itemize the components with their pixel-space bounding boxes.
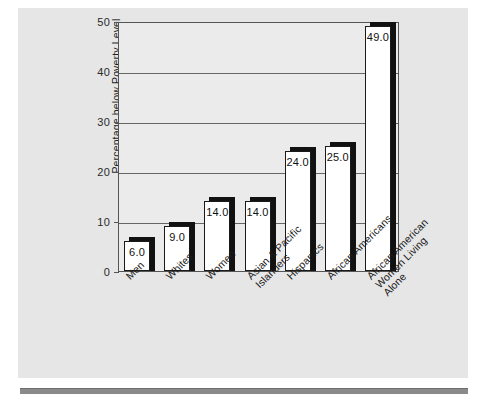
bottom-divider-rule bbox=[20, 388, 468, 394]
y-tick-label-20: 20 bbox=[97, 166, 110, 178]
bar-value-label: 9.0 bbox=[169, 231, 185, 243]
y-axis-label-wrapper: Percentage below Poverty Level bbox=[60, 20, 80, 270]
y-tick-label-0: 0 bbox=[104, 266, 110, 278]
y-tick-label-50: 50 bbox=[97, 16, 110, 28]
y-tick-label-40: 40 bbox=[97, 66, 110, 78]
y-tick-mark-0 bbox=[114, 272, 119, 273]
bar-value-label: 14.0 bbox=[246, 206, 268, 218]
figure-container: Percentage below Poverty Level 010203040… bbox=[0, 0, 486, 402]
bar-value-label: 25.0 bbox=[327, 151, 349, 163]
y-tick-label-10: 10 bbox=[97, 216, 110, 228]
bar-group[interactable]: 25.0 bbox=[325, 23, 351, 271]
bar-group[interactable]: 9.0 bbox=[164, 23, 190, 271]
bar-group[interactable]: 14.0 bbox=[204, 23, 230, 271]
y-axis-tick-labels: 01020304050 bbox=[88, 22, 114, 272]
bar-value-label: 24.0 bbox=[287, 156, 309, 168]
x-axis-tick-labels: MenWhitesWomenAsian & Pacific IslandersH… bbox=[118, 274, 399, 374]
bar-value-label: 6.0 bbox=[129, 246, 145, 258]
y-tick-label-30: 30 bbox=[97, 116, 110, 128]
bar-group[interactable]: 6.0 bbox=[124, 23, 150, 271]
bar-value-label: 14.0 bbox=[206, 206, 228, 218]
plot-area: 6.09.014.014.024.025.049.0 bbox=[118, 22, 399, 272]
bar-group[interactable]: 14.0 bbox=[245, 23, 271, 271]
bar-value-label: 49.0 bbox=[367, 31, 389, 43]
